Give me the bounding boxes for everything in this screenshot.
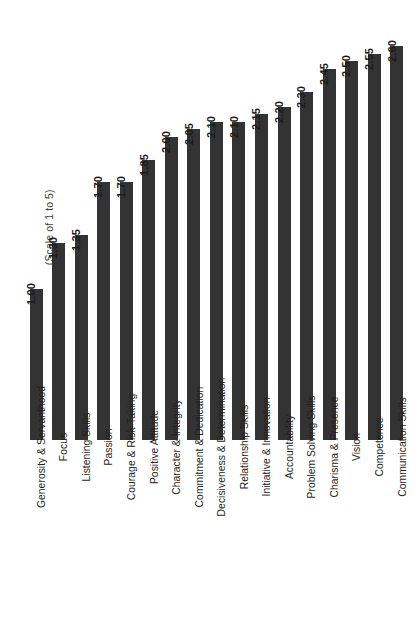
bar-value-label: 1.00	[26, 282, 37, 304]
bar-value-label: 2.10	[206, 116, 217, 138]
bar-value-label: 1.70	[93, 176, 104, 198]
category-label: Courage & Risk-Taking	[127, 394, 137, 500]
bar-group: 1.00Generosity & Servanthood	[26, 0, 49, 644]
bar	[390, 46, 403, 440]
bar	[165, 137, 178, 440]
bar	[345, 61, 358, 440]
bar-group: 2.55Competence	[364, 0, 387, 644]
bar	[97, 182, 110, 440]
category-label: Competence	[375, 418, 385, 477]
bar	[75, 235, 88, 440]
bar-value-label: 1.85	[139, 154, 150, 176]
category-label: Vision	[352, 433, 362, 461]
category-label: Generosity & Servanthood	[37, 386, 47, 508]
bar	[232, 122, 245, 440]
category-label: Initiative & Innovation	[262, 397, 272, 496]
bar-group: 1.35Listening Skills	[71, 0, 94, 644]
bar-group: 2.30Problem Solving Skills	[296, 0, 319, 644]
bar-chart: (Scale of 1 to 5) 1.00Generosity & Serva…	[0, 0, 418, 644]
bar	[278, 107, 291, 440]
bar	[300, 92, 313, 440]
category-label: Commitment & Dedication	[195, 387, 205, 508]
bar-group: 2.60Communication Skills	[386, 0, 409, 644]
category-label: Focus	[59, 433, 69, 461]
bar-group: 2.15Initiative & Innovation	[251, 0, 274, 644]
bar-group: 2.00Character & Integrity	[161, 0, 184, 644]
bar-group: 2.50Vision	[341, 0, 364, 644]
bar-value-label: 2.05	[184, 123, 195, 145]
bar	[52, 243, 65, 440]
bar-group: 1.30Focus	[48, 0, 71, 644]
bar-value-label: 2.60	[387, 40, 398, 62]
bar-value-label: 2.45	[319, 63, 330, 85]
category-label: Positive Attitude	[150, 410, 160, 484]
bar	[323, 69, 336, 440]
category-label: Relationship Skills	[240, 405, 250, 490]
bar-value-label: 1.70	[116, 176, 127, 198]
bar-group: 2.20Accountability	[274, 0, 297, 644]
plot-area: 1.00Generosity & Servanthood1.30Focus1.3…	[0, 0, 418, 644]
bar-value-label: 1.35	[71, 229, 82, 251]
bar-group: 2.10Relationship Skills	[228, 0, 251, 644]
bar-group: 1.85Positive Attitude	[138, 0, 161, 644]
bar-value-label: 2.20	[274, 101, 285, 123]
category-label: Communication Skills	[398, 397, 408, 496]
category-label: Accountability	[285, 415, 295, 479]
bar	[368, 54, 381, 440]
bar-group: 2.05Commitment & Dedication	[183, 0, 206, 644]
bar-value-label: 2.00	[161, 131, 172, 153]
bar-group: 1.70Passion	[93, 0, 116, 644]
category-label: Character & Integrity	[172, 399, 182, 494]
bar-group: 1.70Courage & Risk-Taking	[116, 0, 139, 644]
bar-value-label: 1.30	[48, 237, 59, 259]
bar-value-label: 2.30	[296, 85, 307, 107]
category-label: Problem Solving Skills	[307, 396, 317, 499]
category-label: Listening Skills	[82, 413, 92, 482]
category-label: Decisiveness & Determination	[217, 378, 227, 517]
bar-group: 2.45Charisma & Presence	[319, 0, 342, 644]
bar-value-label: 2.10	[229, 116, 240, 138]
category-label: Passion	[104, 429, 114, 466]
bar-value-label: 2.55	[364, 48, 375, 70]
bar	[255, 114, 268, 440]
bar	[142, 160, 155, 440]
bar-group: 2.10Decisiveness & Determination	[206, 0, 229, 644]
category-label: Charisma & Presence	[330, 396, 340, 497]
bar-value-label: 2.15	[251, 108, 262, 130]
bar-value-label: 2.50	[341, 55, 352, 77]
